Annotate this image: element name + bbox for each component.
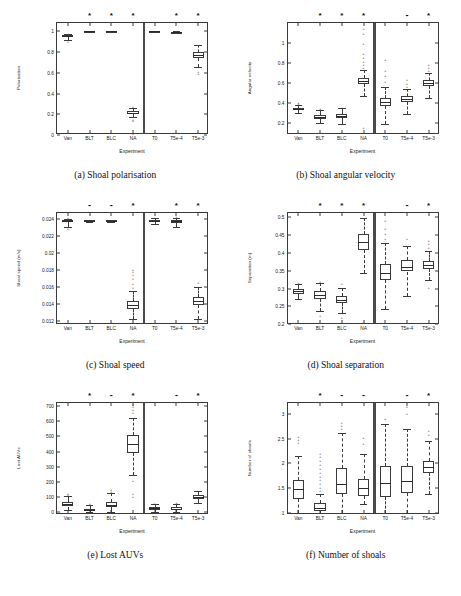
subplot-e: Lost AUVs0100200300400500600700VanBLTBLC… <box>0 380 231 580</box>
y-tick-mark <box>288 123 291 124</box>
whisker-cap-lower <box>360 273 368 274</box>
y-tick-mark-right <box>204 466 207 467</box>
whisker-lower <box>429 86 430 98</box>
whisker-cap-lower <box>151 512 159 513</box>
x-tick-mark-top <box>406 23 407 26</box>
whisker-lower <box>364 250 365 273</box>
y-tick-mark <box>288 306 291 307</box>
subplot-c: Shoal speed (m/s)0.0120.0140.0160.0180.0… <box>0 190 231 380</box>
whisker-cap-lower <box>295 113 303 114</box>
x-tick-mark-top <box>428 213 429 216</box>
subplot-b: Angular velocity0.20.40.60.81VanBLTBLCNA… <box>231 0 461 190</box>
subplot-caption-d: (d) Shoal separation <box>231 360 461 370</box>
y-tick-label: 0.016 <box>42 284 57 289</box>
y-tick-label: 100 <box>46 495 57 500</box>
significance-marker: * <box>110 11 113 20</box>
outlier-point: + <box>427 246 429 247</box>
outlier-point: + <box>341 427 343 428</box>
outlier-point: + <box>319 456 321 457</box>
whisker-lower <box>429 473 430 494</box>
significance-marker: - <box>340 393 343 397</box>
y-tick-label: 0.45 <box>275 233 287 238</box>
y-tick-label: 2 <box>282 461 288 466</box>
x-tick-label: NA <box>360 133 367 141</box>
outlier-point: + <box>319 472 321 473</box>
outlier-point: + <box>427 70 429 71</box>
median-line <box>127 305 138 306</box>
whisker-lower <box>407 272 408 297</box>
whisker-cap-lower <box>129 475 137 476</box>
whisker-upper <box>407 429 408 467</box>
significance-marker: * <box>88 11 91 20</box>
x-tick-label: T5e-3 <box>422 133 435 141</box>
outlier-point: + <box>362 67 364 68</box>
y-tick-label: 0.018 <box>42 267 57 272</box>
x-tick-mark-top <box>111 403 112 406</box>
whisker-cap-lower <box>425 98 433 99</box>
y-tick-label: 500 <box>46 434 57 439</box>
whisker-lower <box>385 497 386 512</box>
whisker-cap-upper <box>316 494 324 495</box>
median-line <box>380 273 391 274</box>
outlier-point: + <box>384 75 386 76</box>
group-divider <box>373 23 375 133</box>
x-tick-label: T5e-4 <box>401 323 414 331</box>
whisker-upper <box>407 89 408 96</box>
y-tick-mark-right <box>204 31 207 32</box>
y-axis-label-b: Angular velocity <box>244 0 256 22</box>
x-tick-mark-top <box>363 403 364 406</box>
y-tick-label: 0.6 <box>47 70 57 75</box>
x-tick-mark-top <box>341 23 342 26</box>
y-tick-mark <box>57 135 60 136</box>
y-axis-label-e: Lost AUVs <box>13 290 25 402</box>
x-tick-label: BLT <box>85 133 93 141</box>
outlier-point: + <box>197 72 199 73</box>
x-tick-mark-top <box>385 403 386 406</box>
outlier-point: + <box>67 41 69 42</box>
y-tick-label: 2.5 <box>278 436 288 441</box>
whisker-cap-lower <box>173 227 181 228</box>
x-tick-mark-top <box>89 213 90 216</box>
y-tick-label: 1.5 <box>278 485 288 490</box>
x-tick-label: BLT <box>316 133 324 141</box>
whisker-cap-lower <box>151 224 159 225</box>
y-tick-mark <box>57 451 60 452</box>
whisker-cap-upper <box>194 491 202 492</box>
median-line <box>380 483 391 484</box>
y-tick-mark-right <box>204 114 207 115</box>
y-tick-mark-right <box>204 235 207 236</box>
x-tick-mark-top <box>67 403 68 406</box>
subplot-f: Number of shoals11.522.53VanBLTBLCNAT0T5… <box>231 380 461 580</box>
whisker-cap-lower <box>316 123 324 124</box>
whisker-cap-lower <box>316 513 324 514</box>
whisker-cap-lower <box>425 494 433 495</box>
y-tick-mark-right <box>435 438 438 439</box>
y-tick-mark <box>288 463 291 464</box>
x-axis-label-b: Experiment <box>287 148 439 154</box>
median-line <box>106 221 117 222</box>
median-line <box>336 300 347 301</box>
y-tick-mark <box>57 269 60 270</box>
x-tick-mark-top <box>89 23 90 26</box>
subplot-caption-e: (e) Lost AUVs <box>0 550 231 560</box>
x-tick-label: T5e-4 <box>170 513 183 521</box>
outlier-point: + <box>67 228 69 229</box>
y-tick-mark <box>288 324 291 325</box>
outlier-point: + <box>175 216 177 217</box>
outlier-point: + <box>132 412 134 413</box>
x-axis-label-d: Experiment <box>287 338 439 344</box>
y-tick-label: 0.8 <box>278 61 288 66</box>
whisker-upper <box>385 243 386 264</box>
outlier-point: + <box>384 417 386 418</box>
median-line <box>62 221 73 222</box>
whisker-cap-lower <box>86 512 94 513</box>
outlier-point: + <box>384 70 386 71</box>
median-line <box>149 221 160 222</box>
outlier-point: + <box>341 107 343 108</box>
y-tick-mark <box>288 512 291 513</box>
significance-marker: * <box>131 201 134 210</box>
whisker-cap-upper <box>403 429 411 430</box>
whisker-cap-lower <box>425 280 433 281</box>
y-tick-mark-right <box>204 512 207 513</box>
x-tick-label: T5e-4 <box>401 513 414 521</box>
